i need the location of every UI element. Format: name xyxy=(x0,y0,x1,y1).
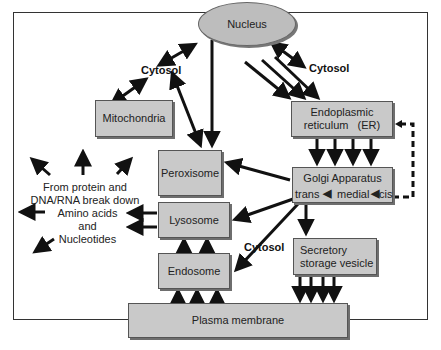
cytosol-label-left: Cytosol xyxy=(141,64,181,76)
peroxisome-label: Peroxisome xyxy=(161,167,219,180)
er-node: Endoplasmic reticulum (ER) xyxy=(291,101,393,137)
er-label-line1: Endoplasmic xyxy=(311,106,374,119)
lysosome-label: Lysosome xyxy=(169,214,219,227)
secretory-label-line2: storage vesicle xyxy=(300,257,373,270)
breakdown-label: From protein and DNA/RNA break down xyxy=(30,181,140,207)
golgi-arrow-icon: ◀ xyxy=(323,187,331,200)
nucleus-label: Nucleus xyxy=(227,18,267,30)
er-label-line2: reticulum (ER) xyxy=(304,119,380,132)
plasma-membrane-node: Plasma membrane xyxy=(128,303,348,338)
cytosol-label-bottom: Cytosol xyxy=(244,241,284,253)
golgi-title: Golgi Apparatus xyxy=(293,172,392,185)
golgi-trans-label: trans xyxy=(295,188,319,201)
golgi-node: Golgi Apparatus trans ◀ medial ◀ cis xyxy=(292,167,393,203)
breakdown-line1: From protein and xyxy=(30,181,140,194)
golgi-medial-label: medial xyxy=(337,188,369,201)
lysosome-node: Lysosome xyxy=(158,202,230,238)
golgi-cis-label: cis xyxy=(379,188,392,201)
products-line2: and xyxy=(50,220,125,233)
mitochondria-node: Mitochondria xyxy=(95,100,173,137)
mitochondria-label: Mitochondria xyxy=(103,112,166,125)
endosome-node: Endosome xyxy=(158,253,230,289)
secretory-vesicle-node: Secretory storage vesicle xyxy=(293,238,377,275)
endosome-label: Endosome xyxy=(168,265,221,278)
cytosol-label-right: Cytosol xyxy=(309,62,349,74)
products-line1: Amino acids xyxy=(50,207,125,220)
products-label: Amino acids and Nucleotides xyxy=(50,207,125,247)
golgi-arrow-icon: ◀ xyxy=(371,187,379,200)
peroxisome-node: Peroxisome xyxy=(158,150,222,196)
plasma-membrane-label: Plasma membrane xyxy=(192,314,284,327)
products-line3: Nucleotides xyxy=(50,233,125,246)
breakdown-line2: DNA/RNA break down xyxy=(30,194,140,207)
nucleus-node: Nucleus xyxy=(198,2,296,46)
secretory-label-line1: Secretory xyxy=(300,244,347,257)
